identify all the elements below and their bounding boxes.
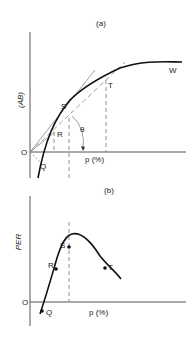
curve-w [38, 62, 182, 178]
panel-b-origin: O [22, 298, 28, 307]
panel-a-y-label: (AB) [16, 92, 25, 108]
panel-b-x-label: p (%) [89, 308, 108, 317]
point-q-marker [40, 309, 44, 313]
theta-label: θ [80, 125, 85, 134]
point-t-label: T [108, 81, 113, 90]
point-s-marker [67, 245, 71, 249]
point-t-marker [103, 266, 107, 270]
panel-a: (a) (AB) p (%) O θ Q R S T W [16, 19, 186, 178]
tangent-line-t [30, 62, 125, 152]
point-s-label-b: S [60, 241, 65, 250]
panel-a-title: (a) [96, 19, 106, 28]
line-r [30, 132, 55, 152]
point-t-label-b: T [108, 263, 113, 272]
diagram: (a) (AB) p (%) O θ Q R S T W (b) PER p (… [0, 0, 194, 341]
point-r-label-b: R [48, 261, 54, 270]
point-r-marker [54, 267, 58, 271]
panel-b-title: (b) [104, 186, 114, 195]
point-r-label: R [57, 130, 63, 139]
panel-b: (b) PER p (%) O Q R S T [14, 186, 186, 326]
panel-b-y-label: PER [14, 234, 23, 251]
panel-a-origin: O [21, 148, 27, 157]
theta-arrow-icon [81, 146, 85, 151]
point-w-label: W [169, 66, 177, 75]
point-s-label: S [61, 102, 66, 111]
panel-a-x-label: p (%) [85, 155, 104, 164]
point-q-label-b: Q [46, 308, 52, 317]
point-q-label: Q [40, 162, 46, 171]
